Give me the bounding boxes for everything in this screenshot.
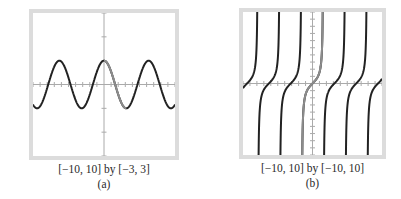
window-label-b: [−10, 10] by [−10, 10] xyxy=(239,162,386,174)
graph-window-b xyxy=(239,8,386,159)
plot-tangent xyxy=(243,12,382,155)
caption-a: (a) xyxy=(29,178,179,190)
caption-b: (b) xyxy=(239,177,386,189)
plot-cosine xyxy=(33,13,175,156)
graph-window-a xyxy=(29,9,179,160)
window-label-a: [−10, 10] by [−3, 3] xyxy=(29,163,179,175)
